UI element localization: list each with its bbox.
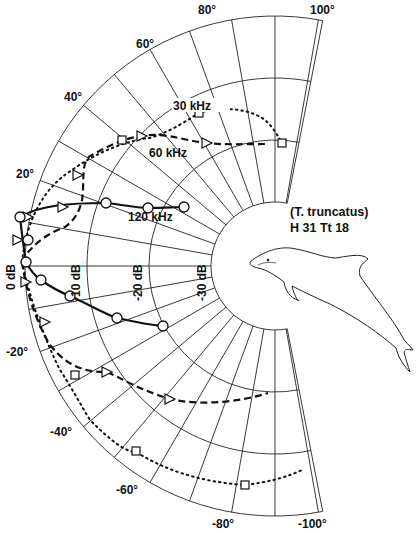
marker-square [132, 447, 140, 455]
grid-spoke [286, 329, 318, 512]
species-label: (T. truncatus) [290, 205, 368, 219]
grid-spoke [150, 49, 243, 210]
marker-triangle [40, 317, 50, 327]
angle-label-minus20: -20° [6, 345, 28, 359]
marker-triangle [202, 138, 212, 148]
curve-label-120khz: 120 kHz [128, 210, 173, 224]
marker-circle [101, 198, 111, 208]
marker-square [118, 136, 126, 144]
db-label-minus30: -30 dB [195, 264, 209, 301]
grid-arc [211, 202, 287, 330]
curve-60khz [22, 135, 268, 403]
marker-square [278, 139, 286, 147]
angle-label-minus100: -100° [298, 517, 327, 531]
angle-label-100: 100° [310, 3, 335, 17]
marker-triangle [102, 367, 112, 377]
grid-spoke [29, 223, 212, 255]
angle-label-minus60: -60° [116, 483, 138, 497]
marker-circle [36, 275, 46, 285]
grid-spoke [29, 277, 212, 309]
grid-spoke [189, 326, 253, 501]
curve-label-60khz: 60 kHz [149, 146, 187, 160]
db-label-minus10: -10 dB [69, 264, 83, 301]
db-label-minus20: -20 dB [131, 264, 145, 301]
marker-circle [179, 202, 189, 212]
dolphin-icon [250, 248, 413, 372]
curve-label-30khz: 30 kHz [173, 99, 211, 113]
grid-spoke [189, 31, 253, 206]
db-label-0: 0 dB [4, 264, 18, 290]
marker-circle [112, 313, 122, 323]
grid-spoke [286, 20, 318, 203]
angle-label-40: 40° [64, 90, 82, 104]
grid-edge [287, 21, 322, 204]
marker-triangle [165, 394, 175, 404]
angle-label-20: 20° [16, 167, 34, 181]
marker-circle [21, 257, 31, 267]
polar-diagram: 80° 100° 60° 40° 20° -20° -40° -60° -80°… [0, 0, 417, 534]
angle-label-80: 80° [198, 3, 216, 17]
marker-square [71, 371, 79, 379]
specimen-id: H 31 Tt 18 [290, 221, 349, 235]
marker-circle [158, 321, 168, 331]
marker-circle [23, 235, 33, 245]
angle-label-60: 60° [136, 37, 154, 51]
marker-circle [15, 212, 25, 222]
grid-spoke [58, 298, 219, 391]
angle-label-minus80: -80° [212, 517, 234, 531]
angle-label-minus40: -40° [50, 425, 72, 439]
marker-square [241, 481, 249, 489]
grid-edge [287, 329, 322, 512]
marker-triangle [73, 170, 83, 180]
